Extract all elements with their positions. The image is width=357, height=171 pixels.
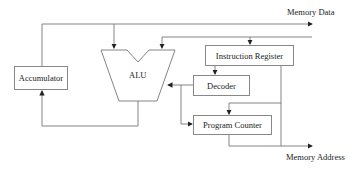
accumulator-block: Accumulator [14,66,68,90]
decoder-block: Decoder [193,75,250,96]
alu-label: ALU [129,70,146,80]
memory-address-label: Memory Address [286,152,345,162]
memory-data-label: Memory Data [287,7,334,17]
program-counter-block: Program Counter [193,115,272,135]
instruction-register-block: Instruction Register [205,45,294,66]
